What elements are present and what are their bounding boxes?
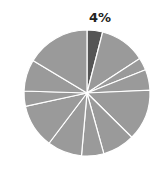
pie-chart [0, 0, 160, 171]
highlight-slice-label: 4% [89, 10, 111, 25]
